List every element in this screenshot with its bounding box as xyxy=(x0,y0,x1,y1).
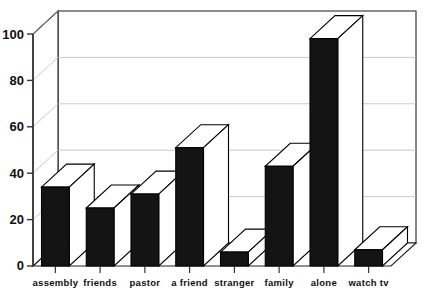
bar-front-face xyxy=(265,166,293,266)
y-tick-label-0: 0 xyxy=(17,258,24,273)
x-label-alone: alone xyxy=(311,277,337,288)
bar-side-face xyxy=(338,16,363,266)
x-axis-labels: assemblyfriendspastora friendstrangerfam… xyxy=(33,277,390,288)
x-label-friends: friends xyxy=(83,277,117,288)
y-tick-label-80: 80 xyxy=(10,73,24,88)
bar-front-face xyxy=(42,187,70,266)
bar-a-friend[interactable] xyxy=(176,125,229,266)
x-label-stranger: stranger xyxy=(214,277,254,288)
y-tick-label-20: 20 xyxy=(10,212,24,227)
x-label-assembly: assembly xyxy=(33,277,79,288)
bar-front-face xyxy=(221,252,249,266)
y-tick-label-40: 40 xyxy=(10,166,24,181)
x-label-family: family xyxy=(264,277,294,288)
bar-front-face xyxy=(310,39,338,266)
bar-front-face xyxy=(176,148,204,266)
x-label-pastor: pastor xyxy=(129,277,160,288)
y-tick-label-60: 60 xyxy=(10,119,24,134)
y-tick-label-100: 100 xyxy=(2,27,24,42)
y-axis-ticks xyxy=(27,34,33,266)
x-label-watch-tv: watch tv xyxy=(347,277,389,288)
bar-front-face xyxy=(86,208,114,266)
x-label-a-friend: a friend xyxy=(171,277,208,288)
bar-alone[interactable] xyxy=(310,16,363,266)
bar-front-face xyxy=(355,250,383,266)
bar-side-face xyxy=(203,125,228,266)
bar-front-face xyxy=(131,194,159,266)
chart-canvas: 100 80 60 40 20 0 assemblyfriendspastora… xyxy=(0,0,424,302)
bar-chart: 100 80 60 40 20 0 assemblyfriendspastora… xyxy=(0,0,424,302)
x-axis-ticks xyxy=(55,266,368,273)
